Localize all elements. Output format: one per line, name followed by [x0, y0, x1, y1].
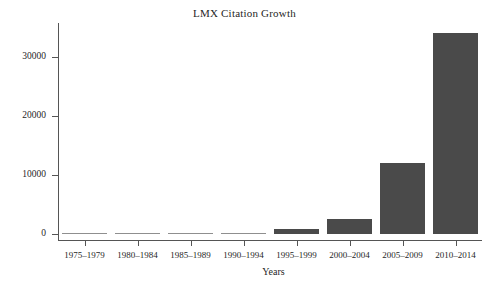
- x-axis-tick: [191, 241, 192, 246]
- y-axis-tick: [52, 234, 58, 235]
- x-axis-tick-label: 1975–1979: [64, 250, 105, 260]
- bar: [433, 33, 479, 234]
- x-axis-title: Years: [0, 266, 489, 277]
- bar: [62, 233, 108, 234]
- bar: [221, 233, 267, 234]
- x-axis-tick-label: 1990–1994: [223, 250, 264, 260]
- y-axis-tick: [52, 116, 58, 117]
- y-axis-tick: [52, 175, 58, 176]
- x-axis-tick-label: 1995–1999: [276, 250, 317, 260]
- x-axis-tick: [297, 241, 298, 246]
- x-axis-tick-label: 1980–1984: [117, 250, 158, 260]
- plot-area: [58, 23, 482, 234]
- bar: [380, 163, 426, 234]
- x-axis-tick-label: 1985–1989: [170, 250, 211, 260]
- x-axis-tick: [244, 241, 245, 246]
- x-axis-line: [58, 240, 482, 241]
- x-axis-tick-label: 2000–2004: [329, 250, 370, 260]
- x-axis-tick: [138, 241, 139, 246]
- chart-title: LMX Citation Growth: [0, 7, 489, 19]
- x-axis-tick: [85, 241, 86, 246]
- x-axis-tick-label: 2010–2014: [435, 250, 476, 260]
- bar: [327, 219, 373, 234]
- bar: [115, 233, 161, 234]
- y-axis-tick-label: 30000: [0, 52, 46, 62]
- y-axis-tick-label: 20000: [0, 111, 46, 121]
- y-axis-tick-label: 0: [0, 229, 46, 239]
- x-axis-tick: [403, 241, 404, 246]
- x-axis-tick-label: 2005–2009: [382, 250, 423, 260]
- x-axis-tick: [350, 241, 351, 246]
- y-axis-tick-label: 10000: [0, 170, 46, 180]
- x-axis-tick: [456, 241, 457, 246]
- chart-container: LMX Citation Growth Citations Years 0100…: [0, 0, 489, 290]
- bar: [274, 229, 320, 234]
- bar: [168, 233, 214, 234]
- y-axis-tick: [52, 57, 58, 58]
